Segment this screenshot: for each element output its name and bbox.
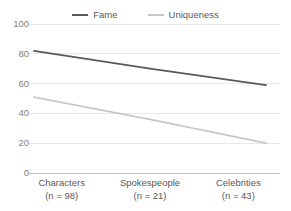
x-tick-sublabel-spokespeople: (n = 21) [111, 190, 188, 203]
x-tick-label-characters: Characters [38, 177, 84, 188]
x-tick-sublabel-celebrities: (n = 43) [200, 190, 277, 203]
x-tick-label-spokespeople: Spokespeople [120, 177, 180, 188]
x-tick-label-celebrities: Celebrities [216, 177, 261, 188]
series-lines [34, 51, 266, 143]
series-line-fame[interactable] [34, 51, 266, 85]
gridlines [29, 24, 280, 173]
x-tick-spokespeople: Spokespeople (n = 21) [111, 177, 188, 211]
x-tick-celebrities: Celebrities (n = 43) [200, 177, 277, 211]
x-tick-characters: Characters (n = 98) [23, 177, 100, 211]
series-line-uniqueness[interactable] [34, 97, 266, 143]
line-chart: Fame Uniqueness 100 80 60 40 20 0 Charac… [0, 0, 291, 211]
x-tick-sublabel-characters: (n = 98) [23, 190, 100, 203]
x-axis: Characters (n = 98) Spokespeople (n = 21… [34, 177, 266, 211]
